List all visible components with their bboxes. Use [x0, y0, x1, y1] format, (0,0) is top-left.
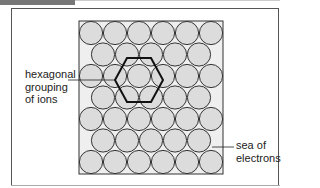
ion-circle — [163, 43, 186, 66]
ion-circle — [127, 64, 150, 87]
ion-circle — [175, 64, 198, 87]
ion-circle — [91, 43, 114, 66]
ion-circle — [79, 64, 102, 87]
ion-circle — [127, 21, 150, 44]
ion-circle — [199, 64, 222, 87]
ion-circle — [115, 43, 138, 66]
ion-circle — [103, 107, 126, 130]
ion-circle — [115, 86, 138, 109]
ion-circle — [187, 43, 210, 66]
ion-circle — [187, 129, 210, 152]
ion-circle — [151, 21, 174, 44]
ion-circle — [151, 150, 174, 173]
ion-circle — [175, 107, 198, 130]
ion-circle — [139, 86, 162, 109]
ion-circle — [175, 21, 198, 44]
ion-circle — [199, 107, 222, 130]
ion-grid — [79, 21, 222, 173]
label-line: of ions — [25, 93, 70, 106]
ion-circle — [163, 86, 186, 109]
ion-circle — [79, 150, 102, 173]
ion-circle — [199, 150, 222, 173]
ion-circle — [103, 150, 126, 173]
ion-circle — [139, 43, 162, 66]
ion-circle — [139, 129, 162, 152]
hexagonal-grouping-label: hexagonal grouping of ions — [25, 68, 70, 106]
label-line: hexagonal — [25, 68, 70, 81]
ion-circle — [151, 107, 174, 130]
ion-circle — [187, 86, 210, 109]
ion-circle — [199, 21, 222, 44]
ion-circle — [115, 129, 138, 152]
label-line: sea of — [236, 139, 281, 152]
label-line: electrons — [236, 152, 281, 165]
ion-circle — [163, 129, 186, 152]
ion-circle — [103, 21, 126, 44]
label-line: grouping — [25, 81, 70, 94]
ion-circle — [127, 150, 150, 173]
ion-circle — [175, 150, 198, 173]
ion-circle — [103, 64, 126, 87]
ion-circle — [127, 107, 150, 130]
ion-circle — [79, 21, 102, 44]
ion-circle — [79, 107, 102, 130]
ion-circle — [151, 64, 174, 87]
sea-of-electrons-label: sea of electrons — [236, 139, 281, 164]
ion-circle — [91, 129, 114, 152]
ion-circle — [91, 86, 114, 109]
